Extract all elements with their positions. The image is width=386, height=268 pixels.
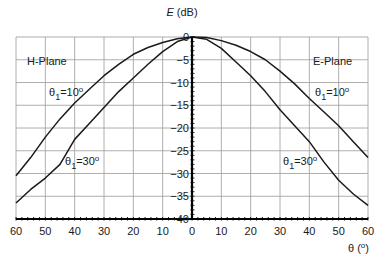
y-tick-label: −10 — [170, 77, 189, 89]
y-axis-title: E (dB) — [166, 6, 197, 18]
x-axis-title: θ (o) — [348, 241, 369, 254]
svg-text:θ1=10o: θ1=10o — [315, 85, 350, 102]
label-e-theta30: θ1=30o — [283, 154, 318, 171]
x-tick-label: 60 — [362, 225, 374, 237]
y-tick-label: −35 — [170, 190, 189, 202]
svg-text:θ1=30o: θ1=30o — [283, 154, 318, 171]
x-tick-label: 20 — [245, 225, 257, 237]
x-tick-label: 50 — [333, 225, 345, 237]
x-tick-label: 10 — [215, 225, 227, 237]
x-tick-label: 50 — [39, 225, 51, 237]
svg-text:θ1=30o: θ1=30o — [65, 154, 100, 171]
x-tick-label: 40 — [303, 225, 315, 237]
radiation-pattern-chart: 60504030201001020304050600−5−10−15−20−25… — [0, 0, 386, 268]
y-tick-label: −30 — [170, 168, 189, 180]
y-tick-label: −5 — [176, 54, 189, 66]
y-tick-label: −20 — [170, 122, 189, 134]
x-tick-label: 0 — [189, 225, 195, 237]
label-e-theta10: θ1=10o — [315, 85, 350, 102]
x-tick-label: 30 — [98, 225, 110, 237]
label-h-theta30: θ1=30o — [65, 154, 100, 171]
x-tick-label: 60 — [10, 225, 22, 237]
x-tick-label: 10 — [157, 225, 169, 237]
y-tick-label: 0 — [183, 31, 189, 43]
y-tick-label: −15 — [170, 99, 189, 111]
e-plane-label: E-Plane — [313, 55, 352, 67]
y-tick-label: −25 — [170, 145, 189, 157]
h-plane-label: H-Plane — [27, 55, 67, 67]
x-tick-label: 20 — [127, 225, 139, 237]
y-tick-label: −40 — [170, 213, 189, 225]
x-tick-label: 40 — [69, 225, 81, 237]
x-tick-label: 30 — [274, 225, 286, 237]
